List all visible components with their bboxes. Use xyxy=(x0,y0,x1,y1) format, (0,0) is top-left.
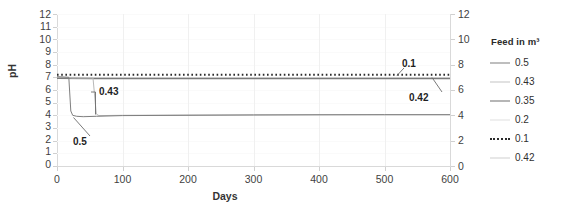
y-tick-label: 9 xyxy=(5,46,51,56)
x-tick xyxy=(319,167,320,171)
annotation-leader-0.5 xyxy=(74,118,91,137)
y-tick-label: 2 xyxy=(5,134,51,144)
y-tick-label: 12 xyxy=(5,9,51,19)
y-tick-label: 4 xyxy=(5,109,51,119)
y2-tick xyxy=(451,14,455,15)
y-tick-label: 3 xyxy=(5,121,51,131)
x-tick xyxy=(450,167,451,171)
x-tick-label: 300 xyxy=(234,174,274,185)
x-tick-label: 200 xyxy=(168,174,208,185)
y-axis-title: pH xyxy=(6,64,18,78)
y2-tick-label: 2 xyxy=(458,135,464,145)
legend: Feed in m³ 0.5 0.43 0.35 0.2 xyxy=(489,36,561,167)
y2-tick xyxy=(451,65,455,66)
y2-tick-label: 12 xyxy=(458,9,470,19)
legend-item-label: 0.2 xyxy=(515,115,529,125)
legend-item-label: 0.42 xyxy=(515,153,534,163)
y2-tick-label: 6 xyxy=(458,84,464,94)
legend-swatch-line-icon xyxy=(489,153,511,163)
legend-swatch-dotted-line-icon xyxy=(489,134,511,144)
y2-tick xyxy=(451,166,455,167)
annotation-leader-0.42 xyxy=(432,78,442,93)
y-tick-label: 5 xyxy=(5,96,51,106)
annotation-label-0.43: 0.43 xyxy=(99,86,118,97)
legend-swatch-line-icon xyxy=(489,77,511,87)
legend-item-0.1[interactable]: 0.1 xyxy=(489,129,561,148)
y2-tick xyxy=(451,141,455,142)
legend-item-label: 0.43 xyxy=(515,77,534,87)
legend-item-0.35[interactable]: 0.35 xyxy=(489,91,561,110)
y-tick-label: 10 xyxy=(5,34,51,44)
legend-title: Feed in m³ xyxy=(491,36,561,47)
annotation-label-0.5: 0.5 xyxy=(73,136,87,147)
annotation-label-0.1: 0.1 xyxy=(402,58,416,69)
annotation-label-0.42: 0.42 xyxy=(409,92,428,103)
legend-item-label: 0.35 xyxy=(515,96,534,106)
y2-tick-label: 8 xyxy=(458,59,464,69)
y-tick-label: 1 xyxy=(5,146,51,156)
y2-tick-label: 0 xyxy=(458,161,464,171)
legend-item-label: 0.5 xyxy=(515,58,529,68)
y-tick-label: 6 xyxy=(5,84,51,94)
x-tick-label: 500 xyxy=(365,174,405,185)
y-tick-label: 0 xyxy=(5,159,51,169)
ph-vs-days-line-chart: 12 11 10 9 8 7 6 5 4 3 2 1 0 pH xyxy=(0,0,561,223)
y-tick-label: 11 xyxy=(5,21,51,31)
y2-tick xyxy=(451,115,455,116)
x-tick xyxy=(254,167,255,171)
legend-item-0.2[interactable]: 0.2 xyxy=(489,110,561,129)
legend-item-0.43[interactable]: 0.43 xyxy=(489,72,561,91)
y2-tick-label: 4 xyxy=(458,110,464,120)
x-tick xyxy=(123,167,124,171)
x-axis-title: Days xyxy=(0,190,450,202)
legend-swatch-line-icon xyxy=(489,115,511,125)
y2-tick xyxy=(451,90,455,91)
legend-item-0.5[interactable]: 0.5 xyxy=(489,53,561,72)
x-tick-label: 0 xyxy=(37,174,77,185)
legend-item-label: 0.1 xyxy=(515,134,529,144)
plot-area: 0.5 0.43 0.1 0.42 xyxy=(57,14,450,166)
x-tick xyxy=(188,167,189,171)
y2-tick xyxy=(451,39,455,40)
x-tick xyxy=(57,167,58,171)
y2-tick-label: 10 xyxy=(458,34,470,44)
x-tick-label: 100 xyxy=(103,174,143,185)
legend-item-0.42[interactable]: 0.42 xyxy=(489,148,561,167)
legend-swatch-line-icon xyxy=(489,96,511,106)
x-tick-label: 400 xyxy=(299,174,339,185)
legend-swatch-line-icon xyxy=(489,58,511,68)
x-tick-label: 600 xyxy=(430,174,470,185)
x-tick xyxy=(385,167,386,171)
